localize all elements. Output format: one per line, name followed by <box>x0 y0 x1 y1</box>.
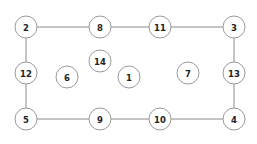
graph-node-5[interactable]: 5 <box>15 108 37 130</box>
node-label-5: 5 <box>23 115 29 125</box>
graph-node-11[interactable]: 11 <box>149 16 171 38</box>
node-label-13: 13 <box>228 69 240 79</box>
node-label-8: 8 <box>97 23 103 33</box>
node-label-1: 1 <box>126 73 132 83</box>
graph-node-9[interactable]: 9 <box>89 108 111 130</box>
graph-node-13[interactable]: 13 <box>223 62 245 84</box>
graph-canvas: 2811312614171359104 <box>0 0 257 144</box>
node-label-9: 9 <box>97 115 103 125</box>
graph-node-6[interactable]: 6 <box>56 66 78 88</box>
node-label-3: 3 <box>231 23 237 33</box>
node-label-10: 10 <box>154 115 166 125</box>
graph-node-14[interactable]: 14 <box>89 50 111 72</box>
graph-diagram: 2811312614171359104 <box>0 0 257 144</box>
graph-node-8[interactable]: 8 <box>89 16 111 38</box>
node-label-2: 2 <box>23 23 29 33</box>
graph-node-4[interactable]: 4 <box>223 108 245 130</box>
graph-node-7[interactable]: 7 <box>177 62 199 84</box>
node-label-12: 12 <box>20 69 32 79</box>
graph-node-10[interactable]: 10 <box>149 108 171 130</box>
graph-node-3[interactable]: 3 <box>223 16 245 38</box>
node-label-4: 4 <box>231 115 237 125</box>
graph-node-2[interactable]: 2 <box>15 16 37 38</box>
node-label-14: 14 <box>94 57 106 67</box>
node-label-11: 11 <box>154 23 166 33</box>
node-label-6: 6 <box>64 73 70 83</box>
graph-node-12[interactable]: 12 <box>15 62 37 84</box>
node-label-7: 7 <box>185 69 191 79</box>
graph-node-1[interactable]: 1 <box>118 66 140 88</box>
node-layer: 2811312614171359104 <box>15 16 245 130</box>
